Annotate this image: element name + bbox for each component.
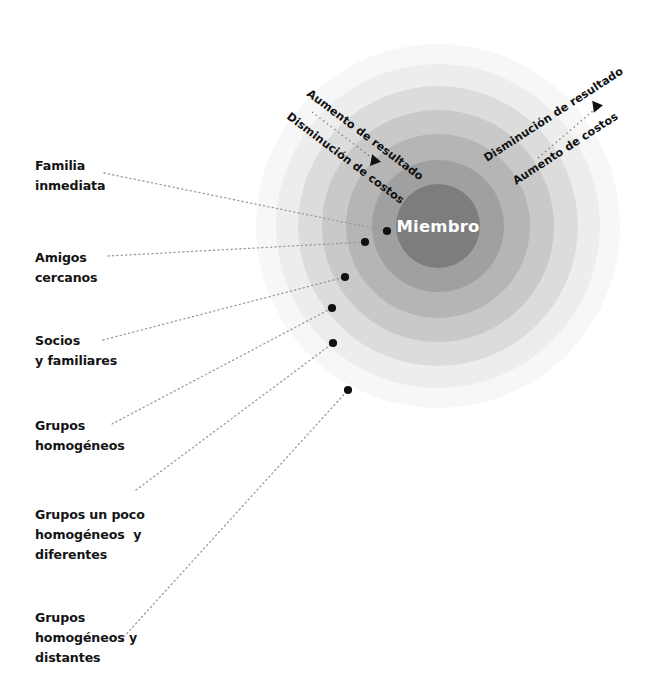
level-label-grupos-homogeneos-y-distantes: Grupos homogéneos y distantes [35, 608, 137, 668]
center-label: Miembro [396, 217, 479, 236]
level-dot [329, 339, 337, 347]
level-dot [341, 273, 349, 281]
level-dot [328, 304, 336, 312]
diagram-canvas: Miembro Aumento de resultado Disminución… [0, 0, 647, 695]
level-dot [361, 238, 369, 246]
level-label-grupos-homogeneos: Grupos homogéneos [35, 416, 125, 456]
level-label-socios-y-familiares: Socios y familiares [35, 331, 117, 371]
level-dot [344, 386, 352, 394]
level-label-amigos-cercanos: Amigos cercanos [35, 248, 98, 288]
level-dot [383, 227, 391, 235]
level-label-grupos-un-poco-homogeneos-y-diferentes: Grupos un poco homogéneos y diferentes [35, 505, 145, 565]
connector-line [136, 343, 333, 490]
connector-line [121, 390, 348, 640]
connector-line [112, 308, 332, 424]
level-label-familia-inmediata: Familia inmediata [35, 156, 105, 196]
right-arrow-head-icon [592, 99, 604, 112]
